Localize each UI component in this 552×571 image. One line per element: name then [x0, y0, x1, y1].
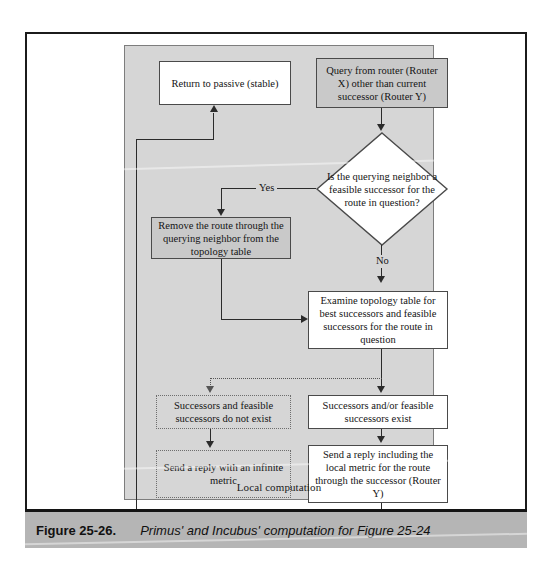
node-successors-exist-label: Successors and/or feasible successors ex…: [313, 399, 443, 425]
arrowhead-query-to-decision: [377, 124, 385, 131]
arrowhead-yes-to-remove-route: [217, 209, 225, 216]
node-successors-not-exist[interactable]: Successors and feasible successors do no…: [156, 395, 291, 429]
connector-decision-no-upper: [381, 245, 382, 255]
arrowhead-to-successors-exist: [377, 386, 385, 393]
edge-label-no: No: [373, 255, 392, 267]
arrowhead-not-exist-to-infinite: [206, 441, 214, 448]
figure-caption-band: Figure 25-26. Primus' and Incubus' compu…: [25, 509, 527, 548]
connector-decision-yes-vertical: [221, 188, 222, 209]
arrowhead-remove-route-to-examine: [301, 315, 308, 323]
node-examine-topology-label: Examine topology table for best successo…: [313, 294, 443, 346]
arrowhead-feedback-to-return-passive: [210, 105, 218, 112]
node-return-to-passive-label: Return to passive (stable): [171, 77, 278, 90]
node-decision-feasible-successor[interactable]: Is the querying neighbor a feasible succ…: [315, 131, 449, 247]
connector-feedback-right: [136, 139, 214, 140]
node-examine-topology[interactable]: Examine topology table for best successo…: [308, 291, 448, 349]
connector-dotted-branch-horizontal: [210, 378, 382, 379]
arrowhead-no-to-examine-topology: [377, 276, 385, 283]
connector-query-to-decision: [381, 108, 382, 125]
arrowhead-dotted-to-successors-not-exist: [206, 386, 214, 393]
node-query-from-router[interactable]: Query from router (Router X) other than …: [316, 58, 448, 108]
node-successors-exist[interactable]: Successors and/or feasible successors ex…: [308, 395, 448, 429]
node-remove-route-label: Remove the route through the querying ne…: [156, 219, 286, 258]
edge-label-yes: Yes: [256, 182, 277, 194]
figure-caption-number: Figure 25-26.: [36, 523, 116, 538]
local-computation-label: Local computation: [125, 481, 433, 493]
figure-caption-text: Primus' and Incubus' computation for Fig…: [140, 523, 430, 538]
node-query-from-router-label: Query from router (Router X) other than …: [321, 64, 443, 103]
node-return-to-passive[interactable]: Return to passive (stable): [159, 61, 291, 105]
connector-remove-route-down: [221, 259, 222, 320]
figure-frame: Return to passive (stable) Query from ro…: [25, 32, 527, 548]
node-send-local-metric[interactable]: Send a reply including the local metric …: [308, 445, 448, 503]
node-decision-label: Is the querying neighbor a feasible succ…: [326, 170, 438, 209]
arrowhead-exist-to-local-metric: [377, 436, 385, 443]
connector-remove-route-to-examine: [221, 319, 301, 320]
node-successors-not-exist-label: Successors and feasible successors do no…: [161, 399, 286, 425]
connector-feedback-into-return: [213, 113, 214, 140]
node-remove-route[interactable]: Remove the route through the querying ne…: [151, 217, 291, 259]
local-computation-container: Return to passive (stable) Query from ro…: [124, 45, 434, 500]
connector-feedback-up: [136, 139, 137, 517]
